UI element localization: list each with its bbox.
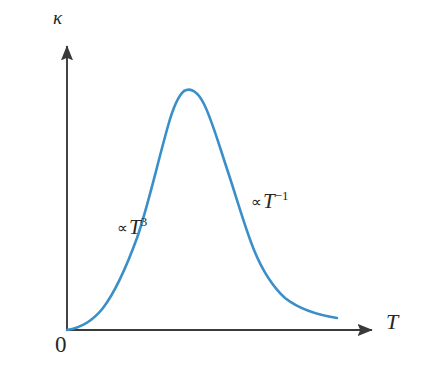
y-axis-label: κ xyxy=(53,8,62,27)
thermal-conductivity-curve xyxy=(67,90,337,330)
proportional-sign: ∝ xyxy=(117,220,128,236)
proportional-sign: ∝ xyxy=(251,194,262,210)
annotation-low-temperature-t-cubed: ∝T3 xyxy=(117,215,147,238)
annotation-high-temperature-t-inverse: ∝T−1 xyxy=(251,189,289,212)
exponent: −1 xyxy=(275,188,289,203)
variable-t: T xyxy=(263,189,275,213)
x-axis-label: T xyxy=(386,311,398,333)
origin-label: 0 xyxy=(55,333,67,356)
figure-root: κ T 0 ∝T3 ∝T−1 xyxy=(0,0,424,369)
plot-canvas xyxy=(0,0,424,369)
exponent: 3 xyxy=(141,214,148,229)
variable-t: T xyxy=(129,215,141,239)
